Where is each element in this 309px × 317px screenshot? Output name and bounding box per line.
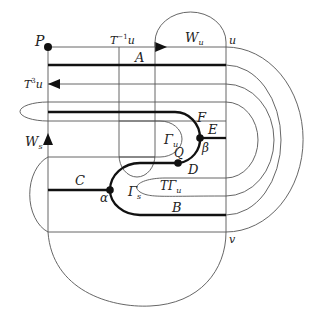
arc-inner xyxy=(226,102,258,178)
arc-3 xyxy=(226,84,274,196)
point-p xyxy=(44,43,52,51)
label-v: v xyxy=(229,233,236,246)
label-w-s: Ws xyxy=(25,134,42,151)
label-gamma-s: Γs xyxy=(127,184,141,201)
label-beta: β xyxy=(201,141,209,155)
label-f: F xyxy=(196,110,207,125)
label-t-inv-u: T−1u xyxy=(110,33,135,47)
label-q: Q xyxy=(174,146,184,160)
arrow-up-icon xyxy=(43,133,53,145)
label-p: P xyxy=(34,33,45,49)
label-e: E xyxy=(207,122,218,137)
label-c: C xyxy=(75,173,85,188)
label-t-gamma-u: TΓu xyxy=(160,179,182,195)
arc-2 xyxy=(226,65,281,215)
bottom-arc xyxy=(48,232,226,306)
label-d: D xyxy=(187,162,199,177)
label-u: u xyxy=(229,34,236,47)
label-alpha: α xyxy=(100,191,108,205)
label-t3u: T3u xyxy=(24,77,43,91)
t-gamma-u-curve xyxy=(140,192,226,196)
label-a: A xyxy=(134,50,144,65)
label-w-u: Wu xyxy=(185,30,204,47)
label-b: B xyxy=(171,200,182,215)
homoclinic-tangle-diagram: P T−1u Wu u A T3u F E Γu β Q D Ws C α Γs… xyxy=(0,0,309,317)
arc-outer xyxy=(226,47,303,232)
point-d xyxy=(174,159,182,167)
arrow-right-icon xyxy=(155,42,167,52)
arrow-left-icon xyxy=(48,79,60,89)
